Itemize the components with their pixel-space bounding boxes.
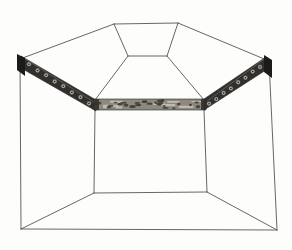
room-perspective-figure — [0, 0, 292, 250]
figure-svg — [0, 0, 292, 250]
